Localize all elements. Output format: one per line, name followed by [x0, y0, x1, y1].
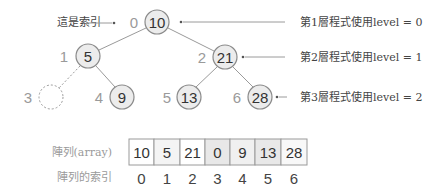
node-index-0: 0 [130, 14, 138, 31]
array-value-2: 21 [184, 144, 201, 161]
arrow-head-icon [180, 21, 183, 24]
node-index-6: 6 [233, 89, 241, 106]
array-index-2: 2 [188, 170, 196, 187]
arrow-head-icon [276, 96, 279, 99]
level-label-1: 第2層程式使用level = 1 [300, 50, 422, 64]
arrow-head-icon [242, 56, 245, 59]
edge-1-4 [96, 66, 115, 87]
array-index-4: 4 [238, 170, 246, 187]
arrow-head-icon [113, 22, 116, 25]
edge-1-3 [59, 66, 80, 88]
array-value-4: 9 [238, 144, 246, 161]
array-value-6: 28 [286, 144, 303, 161]
array-index-0: 0 [137, 170, 145, 187]
tree-node-3-empty [39, 85, 63, 109]
array-index-1: 1 [163, 170, 171, 187]
node-value-4: 9 [118, 89, 126, 106]
edge-2-6 [233, 67, 253, 87]
edge-2-5 [196, 67, 217, 87]
node-value-0: 10 [149, 14, 166, 31]
node-value-1: 5 [84, 48, 92, 65]
node-index-5: 5 [163, 89, 171, 106]
node-value-2: 21 [217, 49, 234, 66]
edge-0-1 [99, 28, 146, 50]
array-index-3: 3 [213, 170, 221, 187]
array-value-5: 13 [260, 144, 277, 161]
node-value-6: 28 [252, 89, 269, 106]
node-index-3: 3 [24, 89, 32, 106]
array-index-5: 5 [264, 170, 272, 187]
level-label-2: 第3層程式使用level = 2 [300, 90, 422, 104]
array-index-label: 陣列的索引 [57, 170, 112, 184]
node-index-2: 2 [198, 49, 206, 66]
node-value-5: 13 [181, 89, 198, 106]
node-index-1: 1 [60, 48, 68, 65]
edge-0-2 [168, 28, 214, 51]
array-value-1: 5 [163, 144, 171, 161]
level-label-0: 第1層程式使用level = 0 [300, 15, 422, 29]
node-index-4: 4 [95, 89, 103, 106]
array-value-3: 0 [213, 144, 221, 161]
heap-diagram: 這是索引 第1層程式使用level = 0 第2層程式使用level = 1 第… [0, 0, 424, 196]
array-value-0: 10 [133, 144, 150, 161]
array-index-6: 6 [290, 170, 298, 187]
array-label: 陣列(array) [52, 145, 112, 159]
index-annotation-label: 這是索引 [57, 15, 101, 29]
